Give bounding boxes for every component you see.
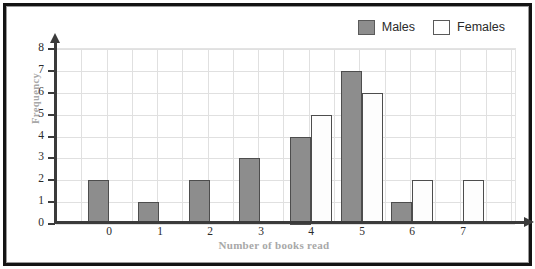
legend-swatch-females [433, 20, 450, 35]
x-axis-line [54, 221, 526, 224]
y-axis-tick [48, 70, 55, 72]
gridline-vertical [435, 49, 436, 223]
y-axis-tick-label: 5 [24, 108, 44, 120]
bar-chart: Frequency Number of books read 012345678… [24, 46, 524, 261]
gridline-vertical [283, 49, 284, 223]
gridline-horizontal [56, 137, 515, 138]
y-axis-tick [48, 179, 55, 181]
screenshot-page: MalesFemales Frequency Number of books r… [0, 0, 535, 269]
bar-females-5 [362, 93, 383, 224]
y-axis-tick-label: 3 [24, 151, 44, 163]
gridline-horizontal [56, 158, 515, 159]
image-frame: MalesFemales Frequency Number of books r… [3, 3, 532, 266]
gridline-vertical [385, 49, 386, 223]
vertical-gridlines [56, 49, 515, 223]
y-axis-tick [48, 201, 55, 203]
x-axis-tick-label: 3 [248, 226, 274, 238]
y-axis-tick [48, 157, 55, 159]
y-axis-tick [48, 223, 55, 225]
legend-item-females: Females [433, 20, 505, 35]
gridline-horizontal [56, 202, 515, 203]
gridline-horizontal [56, 180, 515, 181]
x-axis-tick-label: 1 [147, 226, 173, 238]
x-axis-tick-label: 7 [450, 226, 476, 238]
x-axis-tick-label: 5 [349, 226, 375, 238]
gridline-vertical [334, 49, 335, 223]
y-axis-tick-label: 4 [24, 130, 44, 142]
gridline-vertical [511, 49, 512, 223]
y-axis-arrow-icon [50, 33, 60, 43]
gridline-vertical [486, 49, 487, 223]
legend-swatch-males [358, 20, 375, 35]
y-axis-tick-label: 1 [24, 195, 44, 207]
bar-males-0 [88, 180, 109, 224]
bar-males-5 [341, 71, 362, 224]
horizontal-gridlines [56, 49, 515, 223]
gridline-horizontal [56, 115, 515, 116]
x-axis-tick-label: 0 [96, 226, 122, 238]
y-axis-tick-label: 7 [24, 64, 44, 76]
y-axis-tick-label: 8 [24, 42, 44, 54]
y-axis-line [54, 40, 57, 223]
bar-females-6 [412, 180, 433, 224]
bar-males-3 [239, 158, 260, 224]
bar-males-4 [290, 137, 311, 225]
gridline-vertical [410, 49, 411, 223]
y-axis-tick [48, 136, 55, 138]
bar-females-7 [463, 180, 484, 224]
legend-item-males: Males [358, 20, 415, 35]
x-axis-tick-label: 6 [399, 226, 425, 238]
legend-label-females: Females [457, 21, 505, 34]
y-axis-tick-label: 2 [24, 173, 44, 185]
gridline-vertical [132, 49, 133, 223]
gridline-vertical [233, 49, 234, 223]
x-axis-tick-label: 2 [197, 226, 223, 238]
x-axis-arrow-icon [524, 217, 534, 227]
gridline-horizontal [56, 93, 515, 94]
y-axis-tick [48, 48, 55, 50]
chart-legend: MalesFemales [358, 20, 505, 35]
x-axis-title: Number of books read [24, 239, 524, 251]
gridline-vertical [157, 49, 158, 223]
y-axis-tick-label: 6 [24, 86, 44, 98]
gridline-vertical [81, 49, 82, 223]
x-axis-tick-label: 4 [298, 226, 324, 238]
gridline-horizontal [56, 71, 515, 72]
bar-males-2 [189, 180, 210, 224]
bar-females-4 [311, 115, 332, 224]
gridline-horizontal [56, 224, 515, 225]
plot-area [56, 48, 516, 223]
y-axis-tick-label: 0 [24, 217, 44, 229]
gridline-horizontal [56, 49, 515, 50]
y-axis-tick [48, 92, 55, 94]
legend-label-males: Males [382, 21, 415, 34]
gridline-vertical [460, 49, 461, 223]
gridline-vertical [182, 49, 183, 223]
y-axis-tick [48, 114, 55, 116]
